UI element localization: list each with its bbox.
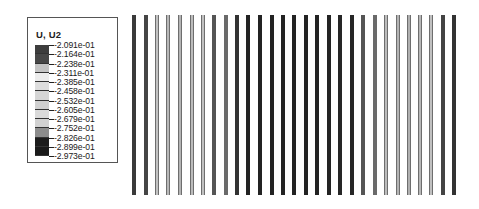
vertical-bar [144, 15, 148, 195]
vertical-bar [304, 15, 308, 195]
vertical-bar [166, 15, 170, 195]
vertical-bar [441, 15, 445, 195]
vertical-bar [315, 15, 319, 195]
vertical-bar [178, 15, 182, 195]
vertical-bar [350, 15, 354, 195]
vertical-bar [338, 15, 342, 195]
vertical-bar [212, 15, 216, 195]
vertical-bar [155, 15, 159, 195]
vertical-bar [361, 15, 365, 195]
vertical-bar [407, 15, 411, 195]
vertical-bar [270, 15, 274, 195]
vertical-bar [452, 15, 456, 195]
vertical-bar [132, 15, 136, 195]
vertical-bar [258, 15, 262, 195]
bar-field [0, 0, 479, 209]
vertical-bar [281, 15, 285, 195]
vertical-bar [246, 15, 250, 195]
vertical-bar [429, 15, 433, 195]
vertical-bar [327, 15, 331, 195]
vertical-bar [201, 15, 205, 195]
vertical-bar [292, 15, 296, 195]
vertical-bar [373, 15, 377, 195]
vertical-bar [190, 15, 194, 195]
vertical-bar [224, 15, 228, 195]
vertical-bar [418, 15, 422, 195]
vertical-bar [235, 15, 239, 195]
vertical-bar [396, 15, 400, 195]
vertical-bar [384, 15, 388, 195]
